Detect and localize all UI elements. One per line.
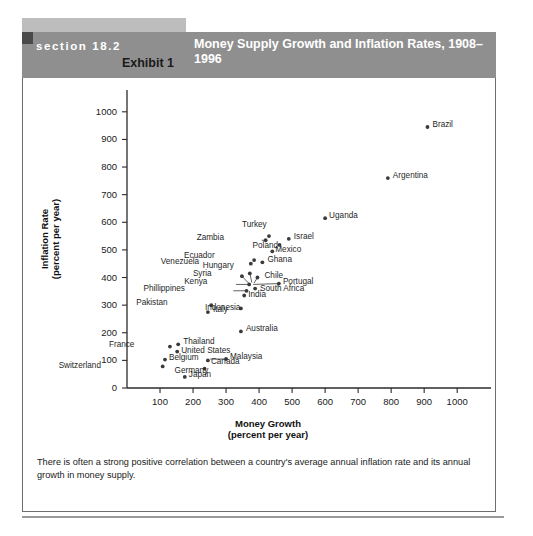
point-label-australia: Australia [246,324,278,333]
scatter-plot: 0100200300400500600700800900100010020030… [23,78,497,450]
data-point-kenya[interactable] [247,283,251,287]
point-label-pakistan: Pakistan [136,298,167,307]
x-tick-label: 600 [308,396,342,407]
data-point-ghana[interactable] [260,260,264,264]
point-label-mexico: Mexico [275,245,301,254]
x-tick-label: 300 [209,396,243,407]
point-label-brazil: Brazil [432,120,452,129]
data-point-australia[interactable] [239,329,243,333]
section-label: section 18.2 [36,40,176,52]
y-tick-label: 500 [83,244,117,255]
point-label-venezuela: Venezuela [161,257,199,266]
data-point-canada[interactable] [206,358,210,362]
x-tick-label: 400 [242,396,276,407]
exhibit-body: 0100200300400500600700800900100010020030… [22,78,496,512]
y-tick-label: 800 [83,161,117,172]
point-label-france: France [109,340,134,349]
data-point-syria[interactable] [240,274,244,278]
y-tick-label: 700 [83,189,117,200]
data-point-argentina[interactable] [386,176,390,180]
x-tick-label: 700 [341,396,375,407]
bottom-rule [22,516,504,518]
point-label-south-africa: South Africa [260,284,304,293]
data-point-mexico[interactable] [270,249,274,253]
data-point-india[interactable] [242,294,246,298]
x-tick-label: 100 [143,396,177,407]
data-point-hungary[interactable] [248,271,252,275]
x-axis-title: Money Growth (percent per year) [153,418,383,440]
point-label-ghana: Ghana [267,255,292,264]
point-label-kenya: Kenya [184,277,207,286]
data-point-france[interactable] [168,345,172,349]
data-point-belgium[interactable] [163,358,167,362]
y-axis-title-sub: (percent per year) [50,199,61,279]
point-label-uganda: Uganda [329,211,358,220]
point-label-argentina: Argentina [393,171,428,180]
data-point-brazil[interactable] [426,125,430,129]
axes-group [122,90,491,393]
x-tick-label: 500 [275,396,309,407]
point-label-zambia: Zambia [197,233,224,242]
y-tick-label: 300 [83,299,117,310]
data-point-ecuador[interactable] [252,258,256,262]
point-label-turkey: Turkey [242,220,267,229]
y-axis-title-main: Inflation Rate [39,209,50,269]
point-label-israel: Israel [294,232,314,241]
y-tick-label: 400 [83,272,117,283]
y-axis-title: Inflation Rate (percent per year) [39,164,61,314]
exhibit-label: Exhibit 1 [36,56,174,70]
point-label-poland: Poland [253,241,279,250]
point-label-chile: Chile [264,271,283,280]
data-point-turkey[interactable] [267,234,271,238]
point-label-switzerland: Switzerland [59,361,101,370]
y-tick-label: 600 [83,216,117,227]
data-point-thailand[interactable] [176,342,180,346]
header-corner-accent [22,32,33,44]
x-tick-label: 900 [407,396,441,407]
x-axis-title-main: Money Growth [235,418,301,429]
point-label-canada: Canada [211,357,240,366]
x-tick-label: 800 [374,396,408,407]
x-axis-title-sub: (percent per year) [228,429,308,440]
exhibit-title: Money Supply Growth and Inflation Rates,… [194,37,490,67]
data-point-uganda[interactable] [323,216,327,220]
point-label-japan: Japan [189,370,211,379]
data-point-chile[interactable] [256,276,260,280]
y-tick-label: 200 [83,327,117,338]
data-point-japan[interactable] [183,375,187,379]
data-point-venezuela[interactable] [249,262,253,266]
point-label-india: India [248,290,266,299]
exhibit-panel: section 18.2 Exhibit 1 Money Supply Grow… [22,18,504,513]
y-tick-label: 0 [83,382,117,393]
y-tick-label: 1000 [83,106,117,117]
data-point-israel[interactable] [287,237,291,241]
point-label-phillippines: Phillippines [144,284,185,293]
data-point-switzerland[interactable] [161,365,165,369]
point-label-belgium: Belgium [169,353,199,362]
exhibit-caption: There is often a strong positive correla… [37,456,477,482]
x-tick-label: 200 [176,396,210,407]
x-tick-label: 1000 [440,396,474,407]
y-tick-label: 900 [83,133,117,144]
point-label-italy: Italy [213,305,228,314]
